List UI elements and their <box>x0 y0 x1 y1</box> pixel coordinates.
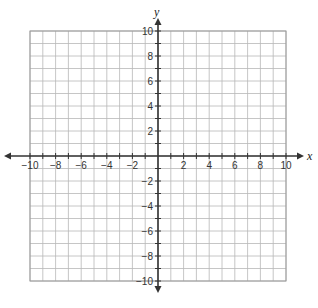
y-tick-label: 10 <box>142 26 154 37</box>
y-axis-label: y <box>153 5 160 19</box>
x-tick-label: −8 <box>50 160 62 171</box>
x-tick-label: −4 <box>101 160 113 171</box>
x-tick-label: 4 <box>206 160 212 171</box>
y-tick-label: 8 <box>147 51 153 62</box>
y-tick-label: −4 <box>142 201 154 212</box>
x-tick-label: −6 <box>75 160 87 171</box>
x-axis-tick-labels: −10−8−6−4−2246810 <box>22 160 292 171</box>
axes <box>4 18 304 293</box>
coordinate-plane: −10−8−6−4−2246810 108642−2−4−6−8−10 x y <box>0 0 318 308</box>
x-tick-label: 6 <box>232 160 238 171</box>
x-tick-label: 10 <box>280 160 292 171</box>
y-tick-label: 6 <box>147 76 153 87</box>
x-tick-label: 8 <box>258 160 264 171</box>
x-axis-left-arrow-icon <box>4 153 11 160</box>
y-tick-label: 2 <box>147 126 153 137</box>
y-axis-down-arrow-icon <box>155 286 162 293</box>
x-axis-right-arrow-icon <box>297 153 304 160</box>
x-tick-label: −2 <box>127 160 139 171</box>
y-tick-label: −8 <box>142 251 154 262</box>
y-tick-label: −2 <box>142 176 154 187</box>
x-tick-label: −10 <box>22 160 39 171</box>
y-axis-up-arrow-icon <box>155 18 162 25</box>
y-tick-label: 4 <box>147 101 153 112</box>
y-tick-label: −10 <box>136 276 153 287</box>
y-tick-label: −6 <box>142 226 154 237</box>
x-axis-label: x <box>306 149 313 163</box>
x-tick-label: 2 <box>181 160 187 171</box>
